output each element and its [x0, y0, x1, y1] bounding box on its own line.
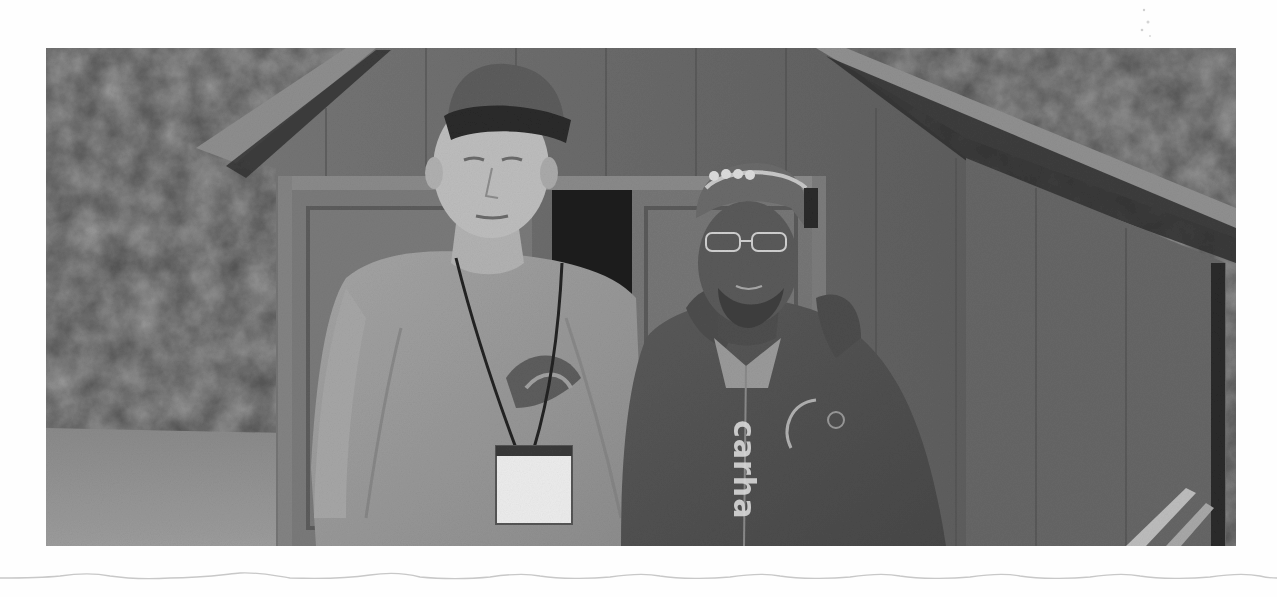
scan-speck: [1130, 0, 1160, 50]
hoodie-lettering: carha: [727, 420, 762, 519]
photo-scene: [46, 48, 1236, 546]
page: carha: [0, 0, 1277, 597]
wavy-page-edge: [0, 565, 1277, 585]
lawn: [46, 428, 286, 546]
name-badge: [496, 446, 572, 524]
photo: [46, 48, 1236, 546]
